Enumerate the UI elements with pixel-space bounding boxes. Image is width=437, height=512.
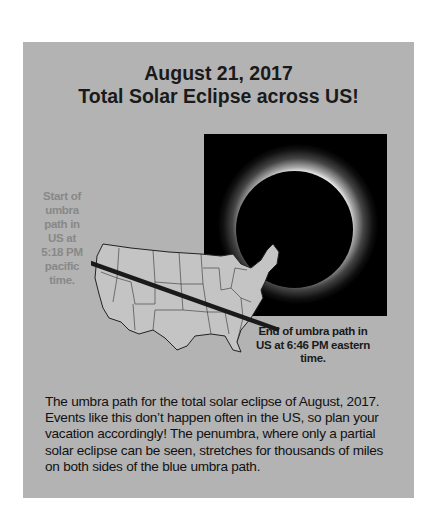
umbra-end-label: End of umbra path in US at 6:46 PM easte… — [253, 325, 373, 366]
title-date: August 21, 2017 — [23, 62, 414, 85]
umbra-start-label: Start of umbra path in US at 5:18 PM pac… — [37, 189, 87, 287]
caption-paragraph: The umbra path for the total solar eclip… — [45, 394, 400, 475]
title-headline: Total Solar Eclipse across US! — [23, 85, 414, 108]
eclipse-info-panel: August 21, 2017 Total Solar Eclipse acro… — [23, 42, 414, 498]
